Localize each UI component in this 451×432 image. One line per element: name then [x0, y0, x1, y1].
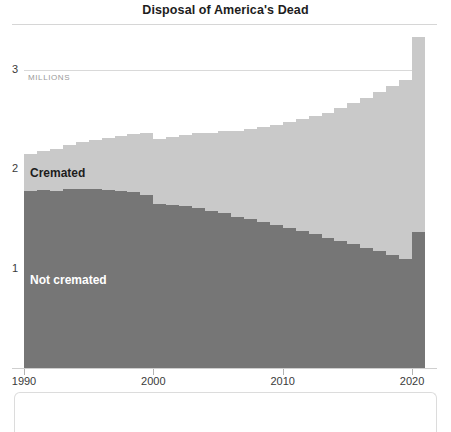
- bar-column: [270, 30, 283, 368]
- bar-segment-cremated: [270, 125, 283, 224]
- bar-column: [76, 30, 89, 368]
- x-axis-tick-2010: 2010: [270, 375, 294, 387]
- bar-column: [373, 30, 386, 368]
- bar-column: [89, 30, 102, 368]
- bar-segment-cremated: [179, 135, 192, 206]
- bar-segment-cremated: [386, 86, 399, 255]
- bar-column: [244, 30, 257, 368]
- y-axis-tick-1: 1: [0, 262, 18, 274]
- bar-column: [412, 30, 425, 368]
- bar-segment-not-cremated: [231, 217, 244, 368]
- bar-column: [218, 30, 231, 368]
- bar-segment-not-cremated: [115, 191, 128, 368]
- bar-column: [127, 30, 140, 368]
- bar-segment-not-cremated: [140, 195, 153, 368]
- bar-column: [386, 30, 399, 368]
- bar-segment-cremated: [89, 140, 102, 189]
- y-axis-unit-label: MILLIONS: [28, 73, 70, 82]
- bar-segment-not-cremated: [360, 248, 373, 368]
- bar-column: [283, 30, 296, 368]
- bar-column: [257, 30, 270, 368]
- title-divider: [12, 24, 437, 25]
- bar-column: [347, 30, 360, 368]
- bar-column: [296, 30, 309, 368]
- x-axis-tick-1990: 1990: [12, 375, 36, 387]
- bar-segment-cremated: [102, 138, 115, 190]
- bar-segment-cremated: [127, 134, 140, 192]
- plot-area: Cremated Not cremated: [24, 30, 425, 368]
- y-axis-tick-2: 2: [0, 162, 18, 174]
- x-axis-tick-2020: 2020: [400, 375, 424, 387]
- series-label-not-cremated: Not cremated: [30, 273, 107, 287]
- bar-segment-not-cremated: [166, 205, 179, 368]
- bar-segment-cremated: [283, 122, 296, 227]
- y-axis-tick-3: 3: [0, 63, 18, 75]
- bar-segment-cremated: [296, 119, 309, 230]
- bar-segment-cremated: [218, 131, 231, 213]
- bar-segment-not-cremated: [257, 222, 270, 368]
- bar-segment-cremated: [166, 137, 179, 205]
- bar-column: [309, 30, 322, 368]
- bar-column: [322, 30, 335, 368]
- page-title: Disposal of America's Dead: [0, 3, 451, 17]
- bar-segment-cremated: [412, 37, 425, 232]
- bar-segment-not-cremated: [386, 255, 399, 368]
- bar-column: [166, 30, 179, 368]
- bar-segment-cremated: [244, 129, 257, 218]
- bar-segment-cremated: [309, 116, 322, 234]
- bar-segment-cremated: [347, 103, 360, 244]
- bar-column: [140, 30, 153, 368]
- bar-segment-not-cremated: [192, 208, 205, 368]
- bar-column: [179, 30, 192, 368]
- bar-segment-not-cremated: [296, 231, 309, 368]
- bar-segment-not-cremated: [270, 225, 283, 368]
- bar-column: [231, 30, 244, 368]
- bar-segment-cremated: [205, 133, 218, 211]
- bar-segment-cremated: [115, 136, 128, 191]
- bar-column: [360, 30, 373, 368]
- bar-segment-cremated: [231, 131, 244, 216]
- bar-segment-not-cremated: [412, 232, 425, 368]
- bar-column: [115, 30, 128, 368]
- bar-segment-cremated: [257, 127, 270, 221]
- bar-segment-not-cremated: [153, 204, 166, 368]
- bar-segment-not-cremated: [334, 241, 347, 368]
- bar-segment-cremated: [192, 133, 205, 208]
- bar-segment-cremated: [360, 98, 373, 248]
- bar-column: [153, 30, 166, 368]
- bar-segment-not-cremated: [179, 206, 192, 368]
- bar-segment-not-cremated: [218, 213, 231, 368]
- bar-segment-not-cremated: [309, 234, 322, 368]
- bar-segment-not-cremated: [399, 259, 412, 368]
- bar-column: [205, 30, 218, 368]
- bar-segment-cremated: [373, 92, 386, 251]
- x-axis-tick-2000: 2000: [141, 375, 165, 387]
- bar-segment-cremated: [140, 133, 153, 195]
- bar-column: [192, 30, 205, 368]
- bar-column: [399, 30, 412, 368]
- bar-segment-not-cremated: [283, 228, 296, 368]
- bar-segment-not-cremated: [347, 244, 360, 368]
- bar-segment-not-cremated: [322, 238, 335, 368]
- bottom-panel: [14, 392, 437, 432]
- bar-segment-not-cremated: [205, 211, 218, 368]
- bar-column: [334, 30, 347, 368]
- bar-segment-cremated: [322, 113, 335, 238]
- bar-segment-not-cremated: [127, 192, 140, 368]
- bar-segment-cremated: [399, 80, 412, 259]
- bar-column: [102, 30, 115, 368]
- bar-segment-not-cremated: [373, 251, 386, 368]
- x-axis-line: [12, 368, 437, 369]
- bar-segment-cremated: [334, 108, 347, 241]
- bar-segment-not-cremated: [244, 219, 257, 368]
- bar-segment-cremated: [153, 139, 166, 204]
- series-label-cremated: Cremated: [30, 166, 85, 180]
